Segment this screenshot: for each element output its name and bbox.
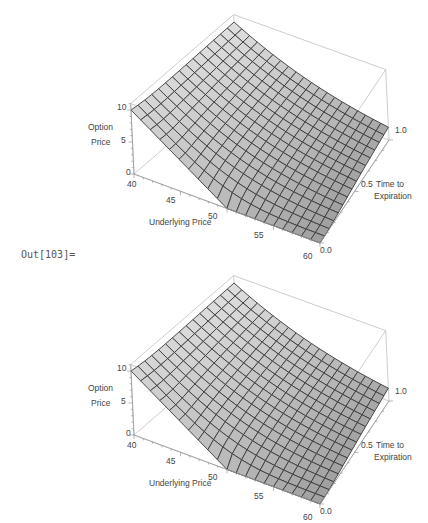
box-edge [131, 104, 134, 174]
x-tick-60: 60 [303, 513, 312, 522]
y-tick-1.0: 1.0 [395, 126, 407, 135]
surface-mesh [131, 22, 388, 243]
box-edge [131, 365, 134, 435]
y-axis-label-line1: Time to [376, 441, 404, 450]
x-tick-45: 45 [166, 196, 175, 205]
option-price-surface-plot-1[interactable]: Option Price 10 5 0 40 45 50 55 60 Under… [0, 0, 428, 262]
surface-canvas[interactable] [0, 0, 428, 262]
x-tick-60: 60 [303, 252, 312, 261]
z-axis-label-line2: Price [91, 138, 110, 147]
z-tick-5: 5 [121, 136, 126, 145]
z-tick-10: 10 [117, 364, 126, 373]
x-tick-45: 45 [166, 457, 175, 466]
z-tick-0: 0 [126, 168, 131, 177]
y-axis-label-line2: Expiration [374, 453, 412, 462]
x-axis-label: Underlying Price [149, 218, 211, 227]
surface-canvas[interactable] [0, 261, 428, 523]
z-axis-label-line1: Option [88, 384, 113, 393]
z-axis-label-line2: Price [91, 399, 110, 408]
x-tick-55: 55 [254, 492, 263, 501]
y-tick-0.0: 0.0 [320, 507, 332, 516]
z-tick-5: 5 [121, 397, 126, 406]
y-tick-0.0: 0.0 [320, 246, 332, 255]
x-axis-label: Underlying Price [149, 479, 211, 488]
z-tick-0: 0 [126, 429, 131, 438]
y-tick-0.5: 0.5 [361, 180, 373, 189]
option-price-surface-plot-2[interactable]: Option Price 10 5 0 40 45 50 55 60 Under… [0, 261, 428, 523]
z-tick-10: 10 [117, 103, 126, 112]
x-tick-55: 55 [254, 231, 263, 240]
y-axis-label-line2: Expiration [374, 192, 412, 201]
y-tick-0.5: 0.5 [361, 441, 373, 450]
x-tick-40: 40 [127, 180, 136, 189]
surface-mesh [131, 283, 388, 504]
x-tick-40: 40 [127, 441, 136, 450]
y-axis-label-line1: Time to [376, 180, 404, 189]
y-tick-1.0: 1.0 [395, 387, 407, 396]
z-axis-label-line1: Option [88, 123, 113, 132]
